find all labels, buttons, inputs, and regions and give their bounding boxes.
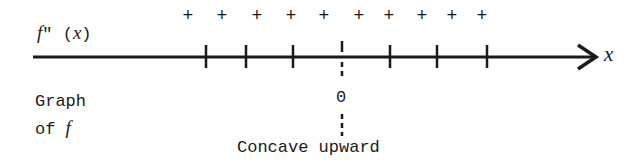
plus-sign: + bbox=[217, 6, 228, 26]
graph-label-f: f bbox=[66, 117, 71, 138]
graph-label-line2: of f bbox=[35, 117, 71, 139]
function-label: f" (x) bbox=[37, 22, 92, 44]
plus-sign: + bbox=[354, 6, 365, 26]
function-label-rest: " ( bbox=[42, 25, 73, 44]
plus-sign: + bbox=[417, 6, 428, 26]
concavity-conclusion: Concave upward bbox=[237, 138, 380, 157]
graph-label-line1: Graph bbox=[35, 92, 86, 111]
sign-row: ++++++++++ bbox=[183, 6, 488, 26]
plus-sign: + bbox=[384, 6, 395, 26]
plus-sign: + bbox=[286, 6, 297, 26]
plus-sign: + bbox=[183, 6, 194, 26]
plus-sign: + bbox=[447, 6, 458, 26]
x-axis-label: x bbox=[604, 42, 613, 67]
plus-sign: + bbox=[477, 6, 488, 26]
plus-sign: + bbox=[252, 6, 263, 26]
plus-sign: + bbox=[319, 6, 330, 26]
zero-label: 0 bbox=[336, 88, 346, 107]
